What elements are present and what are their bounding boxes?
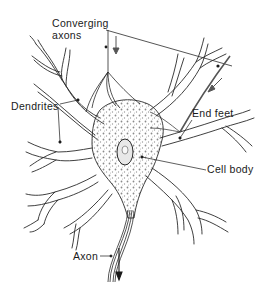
label-axon: Axon: [73, 251, 98, 262]
label-end-feet: End feet: [192, 108, 234, 119]
label-dendrites: Dendrites: [11, 101, 59, 112]
label-cell-body: Cell body: [207, 164, 253, 175]
label-converging-axons-line2: axons: [52, 30, 82, 41]
neuron-diagram: Converging axons Dendrites End feet Cell…: [0, 0, 266, 298]
label-converging-axons-line1: Converging: [52, 18, 109, 29]
axon: [108, 210, 134, 282]
neuron-illustration: [0, 0, 266, 298]
